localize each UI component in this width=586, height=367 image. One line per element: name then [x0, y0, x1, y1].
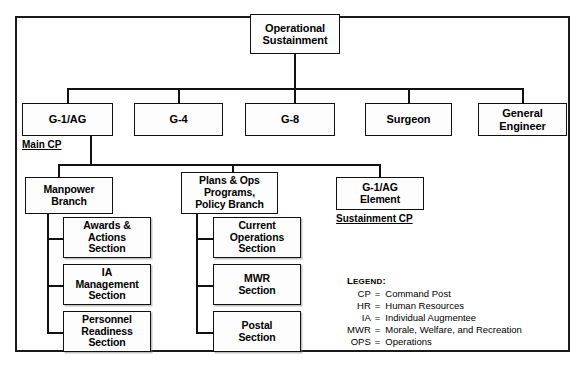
- node-plans-ops-branch[interactable]: Plans & Ops Programs, Policy Branch: [181, 172, 278, 214]
- connector-manpower-spine: [47, 214, 49, 334]
- connector-branch-bus: [58, 164, 381, 166]
- node-ia-management-section[interactable]: IA Management Section: [63, 264, 151, 305]
- legend-abbr: MWR: [347, 324, 375, 336]
- legend-equals: =: [375, 336, 386, 348]
- legend-row: IA = Individual Augmentee: [347, 312, 522, 324]
- node-operational-sustainment[interactable]: Operational Sustainment: [250, 14, 340, 54]
- caption-sustainment-cp: Sustainment CP: [336, 213, 413, 224]
- node-ia-management-section-label: IA Management Section: [75, 267, 138, 302]
- connector-elbow-mwr: [196, 285, 214, 287]
- node-postal-section-label: Postal Section: [238, 320, 275, 344]
- legend-meaning: Operations: [385, 336, 522, 348]
- node-postal-section[interactable]: Postal Section: [213, 311, 301, 352]
- node-current-operations-section[interactable]: Current Operations Section: [213, 217, 301, 258]
- node-manpower-branch[interactable]: Manpower Branch: [25, 177, 113, 214]
- connector-elbow-postal: [196, 332, 214, 334]
- node-g8[interactable]: G-8: [245, 103, 335, 136]
- legend-abbr: IA: [347, 312, 375, 324]
- legend-title-rest: EGEND: [353, 277, 382, 286]
- node-mwr-section[interactable]: MWR Section: [213, 264, 301, 305]
- connector-drop-g4: [178, 88, 180, 104]
- node-g1-ag[interactable]: G-1/AG: [22, 103, 113, 136]
- legend-abbr: CP: [347, 288, 375, 300]
- connector-elbow-personnel: [47, 332, 64, 334]
- node-g1-ag-element[interactable]: G-1/AG Element: [336, 177, 424, 210]
- connector-drop-manpower: [58, 164, 60, 178]
- legend-meaning: Command Post: [385, 288, 522, 300]
- connector-drop-g1ag-element: [379, 164, 381, 178]
- connector-drop-g8: [294, 88, 296, 104]
- connector-drop-surgeon: [408, 88, 410, 104]
- node-surgeon[interactable]: Surgeon: [365, 103, 452, 136]
- legend-meaning: Individual Augmentee: [385, 312, 522, 324]
- connector-elbow-ia: [47, 285, 64, 287]
- legend-row: MWR = Morale, Welfare, and Recreation: [347, 324, 522, 336]
- node-personnel-readiness-section-label: Personnel Readiness Section: [81, 314, 133, 349]
- node-g4-label: G-4: [169, 113, 187, 125]
- legend-abbr: OPS: [347, 336, 375, 348]
- node-g1-ag-label: G-1/AG: [49, 113, 86, 125]
- node-awards-actions-section[interactable]: Awards & Actions Section: [63, 217, 151, 258]
- legend-equals: =: [375, 312, 386, 324]
- legend-equals: =: [375, 288, 386, 300]
- node-general-engineer[interactable]: General Engineer: [478, 103, 567, 136]
- node-manpower-branch-label: Manpower Branch: [43, 184, 94, 208]
- connector-elbow-current-ops: [196, 238, 214, 240]
- legend-meaning: Morale, Welfare, and Recreation: [385, 324, 522, 336]
- legend-title-colon: :: [382, 275, 385, 286]
- connector-plans-ops-spine: [196, 214, 198, 334]
- caption-main-cp: Main CP: [22, 139, 61, 150]
- node-operational-sustainment-label: Operational Sustainment: [263, 22, 328, 47]
- legend-title: LEGEND:: [347, 275, 522, 286]
- connector-root-stem: [294, 54, 296, 89]
- legend-table: CP = Command Post HR = Human Resources I…: [347, 288, 522, 348]
- legend-meaning: Human Resources: [385, 300, 522, 312]
- legend-row: CP = Command Post: [347, 288, 522, 300]
- node-mwr-section-label: MWR Section: [238, 273, 275, 297]
- connector-drop-g1ag: [67, 88, 69, 104]
- connector-g1ag-stem: [90, 136, 92, 165]
- node-surgeon-label: Surgeon: [387, 113, 431, 125]
- legend-row: OPS = Operations: [347, 336, 522, 348]
- node-personnel-readiness-section[interactable]: Personnel Readiness Section: [63, 311, 151, 352]
- node-plans-ops-branch-label: Plans & Ops Programs, Policy Branch: [195, 175, 264, 210]
- legend-row: HR = Human Resources: [347, 300, 522, 312]
- connector-drop-general-engineer: [522, 88, 524, 104]
- legend: LEGEND: CP = Command Post HR = Human Res…: [347, 275, 522, 348]
- node-g1-ag-element-label: G-1/AG Element: [360, 182, 400, 206]
- legend-equals: =: [375, 300, 386, 312]
- org-chart-canvas: Operational Sustainment G-1/AG G-4 G-8 S…: [0, 0, 586, 367]
- legend-abbr: HR: [347, 300, 375, 312]
- node-g4[interactable]: G-4: [134, 103, 223, 136]
- node-g8-label: G-8: [281, 113, 299, 125]
- node-current-operations-section-label: Current Operations Section: [230, 220, 284, 255]
- node-general-engineer-label: General Engineer: [499, 107, 545, 132]
- connector-elbow-awards: [47, 238, 64, 240]
- legend-equals: =: [375, 324, 386, 336]
- node-awards-actions-section-label: Awards & Actions Section: [83, 220, 130, 255]
